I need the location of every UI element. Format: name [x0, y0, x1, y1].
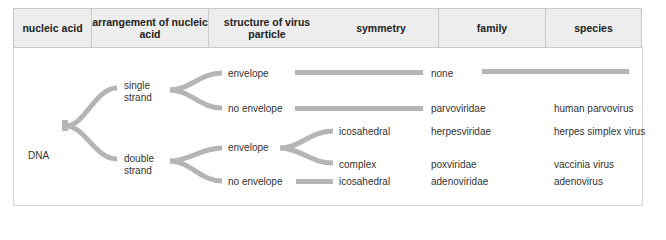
species-human-parvovirus: human parvovirus: [554, 103, 633, 115]
node-icosahedral-2: icosahedral: [339, 176, 390, 188]
family-herpesviridae: herpesviridae: [431, 126, 491, 138]
species-vaccinia: vaccinia virus: [554, 159, 614, 171]
node-double-strand: double strand: [124, 153, 164, 177]
family-parvoviridae: parvoviridae: [431, 103, 485, 115]
node-icosahedral-1: icosahedral: [339, 126, 390, 138]
family-none: none: [431, 68, 453, 80]
node-ds-no-envelope: no envelope: [228, 176, 283, 188]
node-complex: complex: [339, 159, 376, 171]
family-adenoviridae: adenoviridae: [431, 176, 488, 188]
node-ss-no-envelope: no envelope: [228, 103, 283, 115]
family-poxviridae: poxviridae: [431, 159, 477, 171]
node-ds-envelope: envelope: [228, 142, 269, 154]
node-single-strand: single strand: [124, 80, 164, 104]
node-dna: DNA: [28, 150, 49, 162]
branch-dna-double: [66, 126, 117, 159]
branch-dna-single: [66, 88, 117, 126]
species-adenovirus: adenovirus: [554, 176, 603, 188]
node-ss-envelope: envelope: [228, 68, 269, 80]
species-herpes-simplex: herpes simplex virus: [554, 126, 645, 138]
